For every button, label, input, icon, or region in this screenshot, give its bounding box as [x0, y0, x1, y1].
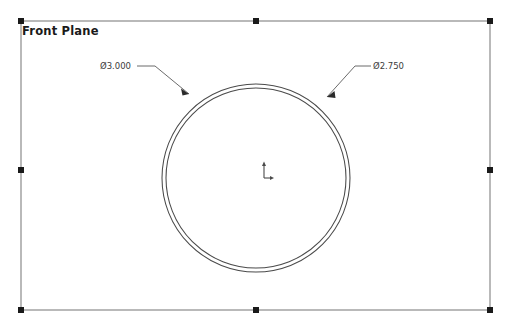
arrowhead-outer: [181, 89, 189, 96]
origin-x-arrow: [270, 176, 274, 180]
sketch-viewport[interactable]: Front Plane Ø3.000 Ø2.750: [0, 0, 514, 331]
handle-top-right[interactable]: [487, 18, 493, 24]
front-plane-label: Front Plane: [22, 24, 99, 38]
diameter-dimension-outer-label[interactable]: Ø3.000: [100, 61, 131, 71]
handle-top-center[interactable]: [253, 18, 259, 24]
diameter-dimension-inner-leader[interactable]: [327, 66, 371, 98]
handle-bottom-center[interactable]: [253, 307, 259, 313]
origin-y-arrow: [262, 162, 266, 167]
handle-bottom-left[interactable]: [18, 307, 24, 313]
diameter-dimension-outer-leader[interactable]: [137, 66, 189, 96]
diameter-dimension-inner-label[interactable]: Ø2.750: [373, 61, 404, 71]
outer-circle[interactable]: [162, 84, 350, 272]
drawing-canvas[interactable]: [0, 0, 514, 331]
handle-bottom-right[interactable]: [487, 307, 493, 313]
handle-middle-left[interactable]: [18, 167, 24, 173]
origin-marker[interactable]: [262, 162, 274, 181]
handle-middle-right[interactable]: [487, 167, 493, 173]
front-plane-border[interactable]: [21, 21, 490, 310]
inner-circle[interactable]: [166, 88, 346, 268]
